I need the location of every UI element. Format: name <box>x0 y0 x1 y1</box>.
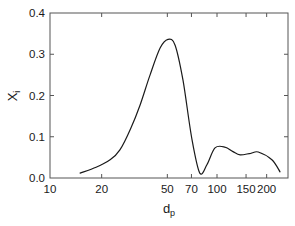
y-tick-label: 0.0 <box>29 172 45 184</box>
x-tick-label: 10 <box>44 183 57 195</box>
y-tick-label: 0.1 <box>29 131 45 143</box>
y-axis-ticks: 0.00.10.20.30.4 <box>29 7 288 184</box>
line-chart: 10205070100150200 0.00.10.20.30.4 dp Xi <box>0 0 295 226</box>
data-line <box>80 39 280 174</box>
x-tick-label: 150 <box>236 183 255 195</box>
x-axis-label: dp <box>163 201 175 218</box>
y-axis-label: Xi <box>5 91 22 102</box>
x-tick-label: 50 <box>161 183 174 195</box>
x-tick-label: 70 <box>185 183 198 195</box>
x-tick-label: 200 <box>257 183 276 195</box>
y-tick-label: 0.2 <box>29 90 45 102</box>
x-axis-ticks: 10205070100150200 <box>44 13 277 195</box>
y-tick-label: 0.3 <box>29 48 45 60</box>
y-tick-label: 0.4 <box>29 7 46 19</box>
x-tick-label: 20 <box>95 183 108 195</box>
x-tick-label: 100 <box>207 183 226 195</box>
